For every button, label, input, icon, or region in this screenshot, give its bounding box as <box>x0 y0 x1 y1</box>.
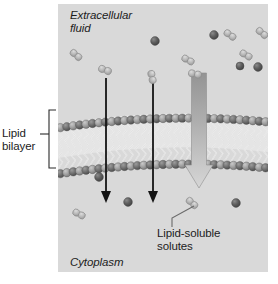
solute-particle-dark <box>95 173 104 182</box>
figure-root: Extracellular fluid Cytoplasm Lipid bila… <box>0 0 278 284</box>
membrane-head-group <box>268 164 276 172</box>
membrane-head-group <box>268 118 276 126</box>
lipid-bilayer-bracket <box>40 110 56 168</box>
solute-particle-dark <box>236 62 244 70</box>
solute-particle-dark <box>210 31 219 40</box>
solute-particle-dark <box>151 37 160 46</box>
membrane-head-group <box>261 118 269 126</box>
membrane-head-group <box>50 124 58 132</box>
membrane-diffusion-diagram <box>0 0 278 284</box>
membrane-head-group <box>50 170 58 178</box>
extracellular-fluid-label: Extracellular fluid <box>70 9 132 34</box>
lipid-soluble-solutes-label: Lipid-soluble solutes <box>157 227 220 254</box>
membrane-head-group <box>261 164 269 172</box>
solute-particle-dark <box>232 199 241 208</box>
solute-particle-dark <box>254 63 263 72</box>
cytoplasm-label: Cytoplasm <box>70 256 123 269</box>
lipid-bilayer-label: Lipid bilayer <box>2 127 35 154</box>
solute-particle-dark <box>124 198 133 207</box>
